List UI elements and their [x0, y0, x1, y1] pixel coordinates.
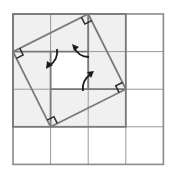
- pythagoras-grid-diagram: [0, 0, 173, 180]
